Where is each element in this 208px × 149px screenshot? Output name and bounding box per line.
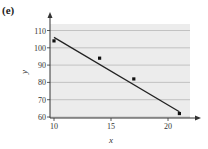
scatter-chart: 60708090100110101520xy bbox=[0, 0, 208, 149]
y-axis-arrow-icon bbox=[48, 12, 53, 18]
y-tick-label: 70 bbox=[38, 96, 46, 105]
plot-area bbox=[50, 24, 190, 118]
x-axis-arrow-icon bbox=[195, 116, 201, 121]
y-axis-label: y bbox=[19, 70, 29, 75]
x-tick-label: 15 bbox=[107, 122, 115, 131]
data-point bbox=[132, 77, 135, 80]
x-axis-label: x bbox=[108, 135, 113, 145]
x-tick-label: 20 bbox=[164, 122, 172, 131]
y-tick-label: 90 bbox=[38, 61, 46, 70]
y-tick-label: 110 bbox=[34, 27, 46, 36]
y-tick-label: 100 bbox=[34, 44, 46, 53]
y-tick-label: 80 bbox=[38, 78, 46, 87]
data-point bbox=[98, 57, 101, 60]
data-point bbox=[52, 39, 55, 42]
data-point bbox=[178, 112, 181, 115]
x-tick-label: 10 bbox=[50, 122, 58, 131]
y-tick-label: 60 bbox=[38, 113, 46, 122]
